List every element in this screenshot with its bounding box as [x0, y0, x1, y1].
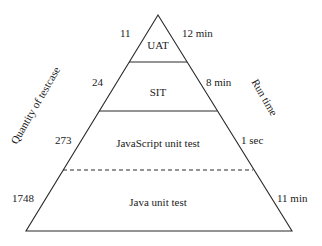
layer-java-label: Java unit test: [129, 197, 186, 208]
pyramid-diagram: [0, 0, 322, 246]
sit-run-time: 8 min: [206, 77, 231, 88]
java-run-time: 11 min: [277, 193, 307, 204]
uat-quantity: 11: [120, 28, 131, 39]
layer-js-label: JavaScript unit test: [116, 138, 200, 149]
uat-run-time: 12 min: [182, 28, 213, 39]
js-quantity: 273: [55, 135, 72, 146]
sit-quantity: 24: [92, 77, 103, 88]
layer-uat-label: UAT: [147, 40, 168, 51]
js-run-time: 1 sec: [241, 135, 263, 146]
java-quantity: 1748: [12, 193, 34, 204]
layer-sit-label: SIT: [150, 87, 167, 98]
